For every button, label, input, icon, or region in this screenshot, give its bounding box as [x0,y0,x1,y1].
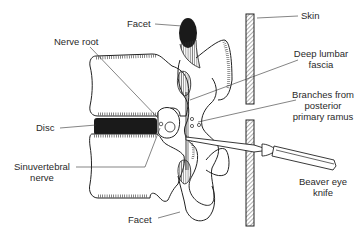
label-sinuvertebral-nerve: Sinuvertebral nerve [8,161,76,183]
label-facet-top: Facet [127,18,151,29]
label-branches-posterior-ramus: Branches from posterior primary ramus [284,89,362,122]
ramus-branch-dot [190,124,193,127]
label-line: Beaver eye [288,176,358,187]
label-skin: Skin [301,10,319,21]
label-line: nerve [8,172,76,183]
label-line: Sinuvertebral [8,161,76,172]
label-disc: Disc [36,122,54,133]
label-line: fascia [286,59,356,70]
lower-vertebral-body [89,134,184,201]
upper-vertebral-body [90,54,189,116]
ramus-branch-dot [190,117,193,120]
label-beaver-eye-knife: Beaver eye knife [288,176,358,198]
facet-upper [179,18,200,68]
beaver-eye-knife [186,137,336,170]
label-nerve-root: Nerve root [54,36,98,47]
label-line: Deep lumbar [286,48,356,59]
label-line: knife [288,187,358,198]
disc [94,118,157,135]
label-line: primary ramus [284,111,362,122]
label-line: Branches from [284,89,362,100]
label-line: posterior [284,100,362,111]
nerve-structures [186,92,201,170]
label-facet-bottom: Facet [128,214,152,225]
label-deep-lumbar-fascia: Deep lumbar fascia [286,48,356,70]
ramus-branch-dot [197,123,200,126]
skin-layer [246,14,254,226]
